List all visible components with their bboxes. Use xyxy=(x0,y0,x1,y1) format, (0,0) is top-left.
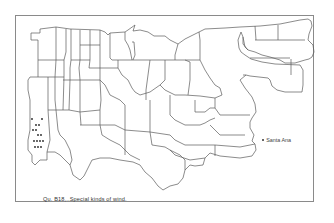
region-map xyxy=(0,0,334,223)
response-dots xyxy=(31,118,44,148)
legend-label: Santa Ana xyxy=(266,137,291,143)
legend-santa-ana: Santa Ana xyxy=(262,137,291,143)
county-boundaries xyxy=(28,19,314,190)
map-caption: Qu. B18,..Special kinds of wind. xyxy=(43,196,127,202)
legend-dot-icon xyxy=(262,139,264,141)
